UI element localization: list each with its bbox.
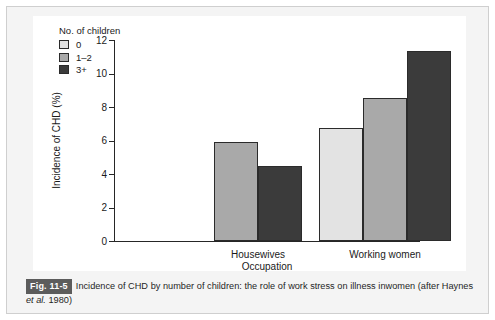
bar-working-women-3 (407, 51, 451, 241)
y-tick-label: 6 (101, 136, 107, 146)
y-tick-label: 4 (101, 170, 107, 180)
y-tick-label: 2 (101, 203, 107, 213)
chart-card: Incidence of CHD (%) 024681012 Housewive… (33, 16, 466, 271)
caption-et-al: et al. (26, 295, 46, 305)
chart-legend: No. of children 01–23+ (59, 25, 120, 78)
caption-line-1: Incidence of CHD by number of children: … (76, 281, 386, 291)
y-tick-mark (109, 208, 114, 209)
bar-working-women-0 (319, 128, 363, 241)
legend-label: 1–2 (76, 53, 92, 63)
y-tick-mark (109, 174, 114, 175)
legend-swatch-icon (59, 65, 69, 74)
y-axis-title-label: Incidence of CHD (%) (51, 92, 62, 189)
y-tick-label: 8 (101, 103, 107, 113)
caption-line-2-post: 1980) (46, 295, 72, 305)
figure-number-badge: Fig. 11-5 (26, 279, 72, 294)
legend-title: No. of children (59, 25, 120, 36)
legend-item-12: 1–2 (59, 53, 120, 63)
legend-rows: 01–23+ (59, 40, 120, 75)
figure-caption: Fig. 11-5Incidence of CHD by number of c… (26, 279, 473, 306)
y-tick-0: 0 (114, 241, 115, 242)
y-tick-2: 2 (114, 208, 115, 209)
y-tick-mark (109, 107, 114, 108)
bar-housewives-3 (258, 166, 302, 241)
y-tick-mark (109, 141, 114, 142)
legend-item-0: 0 (59, 40, 120, 50)
plot-area: 024681012 HousewivesWorking women (114, 40, 420, 241)
y-tick-8: 8 (114, 107, 115, 108)
legend-item-3: 3+ (59, 65, 120, 75)
caption-line-2-pre: women (after Haynes (386, 281, 474, 291)
category-label-working-women: Working women (349, 249, 421, 260)
legend-label: 0 (76, 40, 81, 50)
y-tick-6: 6 (114, 141, 115, 142)
x-axis-title-label: Occupation (242, 261, 293, 272)
y-tick-4: 4 (114, 174, 115, 175)
legend-label: 3+ (76, 65, 87, 75)
bar-working-women-12 (363, 98, 407, 241)
legend-swatch-icon (59, 40, 69, 49)
category-label-housewives: Housewives (231, 249, 285, 260)
x-axis-line (114, 241, 420, 242)
bar-housewives-12 (214, 142, 258, 241)
x-axis-title: Occupation (114, 261, 420, 272)
legend-swatch-icon (59, 53, 69, 62)
figure-page: Incidence of CHD (%) 024681012 Housewive… (0, 0, 495, 320)
y-tick-mark (109, 241, 114, 242)
y-tick-label: 0 (101, 237, 107, 247)
